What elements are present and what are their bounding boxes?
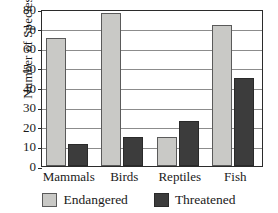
bar-fish-endangered xyxy=(212,25,232,166)
bar-fish-threatened xyxy=(234,78,254,166)
y-axis-tick-label: 0 xyxy=(10,160,36,173)
bar-reptiles-endangered xyxy=(157,137,177,166)
y-axis-tick-label: 40 xyxy=(10,82,36,95)
y-axis-tick-label: 20 xyxy=(10,121,36,134)
bar-reptiles-threatened xyxy=(179,121,199,166)
chart-legend: Endangered Threatened xyxy=(0,190,278,210)
y-axis-tick-labels: 01020304050607080 xyxy=(10,0,36,180)
y-axis-tick-label: 70 xyxy=(10,23,36,36)
x-axis-tick-label: Mammals xyxy=(41,169,97,185)
plot-area xyxy=(41,10,263,167)
y-axis-tick-label: 10 xyxy=(10,140,36,153)
bar-mammals-endangered xyxy=(46,38,66,166)
y-axis-tick-label: 50 xyxy=(10,62,36,75)
bar-chart: Number of Species 01020304050607080 Mamm… xyxy=(0,0,278,213)
x-axis-tick-label: Reptiles xyxy=(152,169,208,185)
bar-birds-threatened xyxy=(123,137,143,166)
bars-layer xyxy=(42,11,262,166)
threatened-swatch-icon xyxy=(154,193,169,207)
y-axis-tick-label: 30 xyxy=(10,101,36,114)
legend-label-endangered: Endangered xyxy=(63,193,127,207)
x-axis-tick-label: Fish xyxy=(208,169,264,185)
legend-label-threatened: Threatened xyxy=(175,193,236,207)
y-axis-tick-label: 60 xyxy=(10,42,36,55)
bar-birds-endangered xyxy=(101,13,121,166)
bar-mammals-threatened xyxy=(68,144,88,166)
x-axis-tick-label: Birds xyxy=(97,169,153,185)
endangered-swatch-icon xyxy=(42,193,57,207)
legend-item-endangered: Endangered xyxy=(42,193,127,207)
y-axis-tick-label: 80 xyxy=(10,3,36,16)
legend-item-threatened: Threatened xyxy=(154,193,236,207)
x-axis-tick-labels: MammalsBirdsReptilesFish xyxy=(41,169,263,187)
